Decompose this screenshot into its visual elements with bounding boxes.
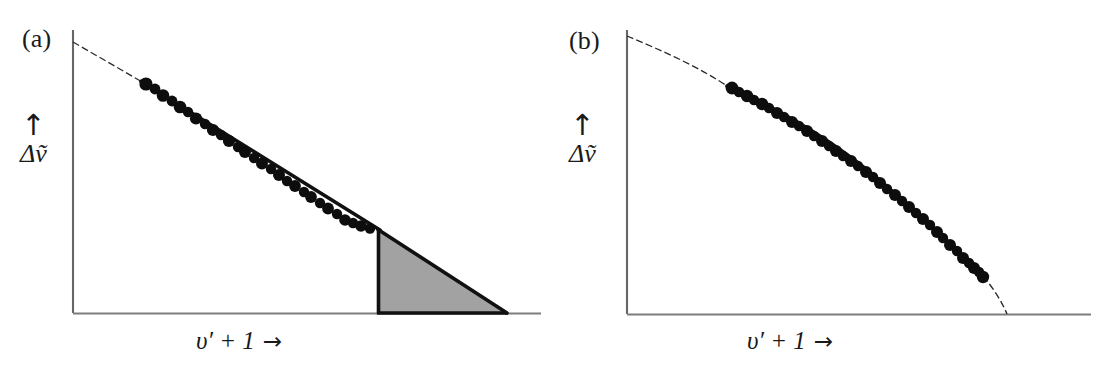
y-axis-symbol-a: Δṽ xyxy=(20,141,47,168)
y-axis-arrow-icon-b: ↑ xyxy=(569,112,596,140)
dashed-extrapolation-line-a xyxy=(73,42,144,83)
x-axis-label-a: υ′ + 1→ xyxy=(196,327,282,355)
y-axis-label-b: ↑ Δṽ xyxy=(569,112,596,167)
x-axis-arrow-icon-b: → xyxy=(814,328,833,354)
data-points-b xyxy=(726,82,990,284)
y-axis-symbol-b: Δṽ xyxy=(569,141,596,168)
y-axis-arrow-icon-a: ↑ xyxy=(20,112,47,140)
panel-a: (a) ↑ Δṽ υ′ + 1→ xyxy=(0,0,551,376)
figure-root: (a) ↑ Δṽ υ′ + 1→ xyxy=(0,0,1103,376)
panel-label-b: (b) xyxy=(569,26,600,56)
panel-b: (b) ↑ Δṽ υ′ + 1→ xyxy=(551,0,1103,376)
y-axis-label-a: ↑ Δṽ xyxy=(20,112,47,167)
x-axis-arrow-icon-a: → xyxy=(263,328,282,354)
dashed-extrapolation-upper-b xyxy=(627,36,730,88)
panel-label-a: (a) xyxy=(22,24,51,54)
panel-a-plot xyxy=(0,0,551,376)
x-axis-symbol-b: υ′ + 1 xyxy=(747,327,806,354)
x-axis-label-b: υ′ + 1→ xyxy=(747,327,833,355)
panel-b-plot xyxy=(551,0,1103,376)
x-axis-symbol-a: υ′ + 1 xyxy=(196,327,255,354)
